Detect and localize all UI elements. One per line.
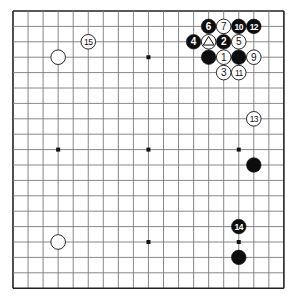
black-stone [231, 250, 246, 265]
star-point [146, 240, 150, 244]
black-stone: 2 [216, 35, 231, 50]
star-point [146, 148, 150, 152]
black-stone-icon [247, 158, 262, 173]
move-number-label: 12 [250, 22, 259, 32]
white-stone: 1 [216, 50, 231, 65]
white-stone-icon [51, 235, 66, 250]
black-stone-icon [231, 250, 246, 265]
star-point [146, 55, 150, 59]
move-number-label: 10 [235, 22, 244, 32]
stones-layer: 67101242519311151314 [51, 19, 261, 265]
white-stone-icon [51, 50, 66, 65]
white-stone: 11 [231, 65, 246, 80]
star-point [56, 148, 60, 152]
move-number-label: 9 [251, 52, 257, 63]
white-stone [51, 50, 66, 65]
black-stone [231, 50, 246, 65]
move-number-label: 14 [235, 222, 244, 232]
move-number-label: 5 [236, 36, 242, 47]
black-stone [201, 50, 216, 65]
white-stone: 5 [231, 35, 246, 50]
white-stone: 7 [216, 19, 231, 34]
go-board: 67101242519311151314 [0, 0, 295, 298]
move-number-label: 1 [221, 52, 227, 63]
move-number-label: 7 [221, 21, 227, 32]
black-stone: 14 [231, 219, 246, 234]
white-stone: 13 [247, 112, 262, 127]
white-stone: 15 [81, 35, 96, 50]
black-stone: 12 [247, 19, 262, 34]
move-number-label: 15 [84, 37, 93, 47]
black-stone: 4 [186, 35, 201, 50]
black-stone-icon [231, 50, 246, 65]
white-stone: 3 [216, 65, 231, 80]
black-stone: 10 [231, 19, 246, 34]
star-point [237, 240, 241, 244]
star-point [237, 148, 241, 152]
black-stone: 6 [201, 19, 216, 34]
move-number-label: 6 [206, 21, 212, 32]
white-stone [51, 235, 66, 250]
move-number-label: 3 [221, 67, 227, 78]
move-number-label: 11 [235, 68, 243, 78]
white-stone [201, 35, 216, 50]
white-stone: 9 [247, 50, 262, 65]
move-number-label: 2 [221, 36, 227, 47]
black-stone [247, 158, 262, 173]
move-number-label: 13 [250, 114, 259, 124]
move-number-label: 4 [191, 36, 197, 47]
black-stone-icon [201, 50, 216, 65]
